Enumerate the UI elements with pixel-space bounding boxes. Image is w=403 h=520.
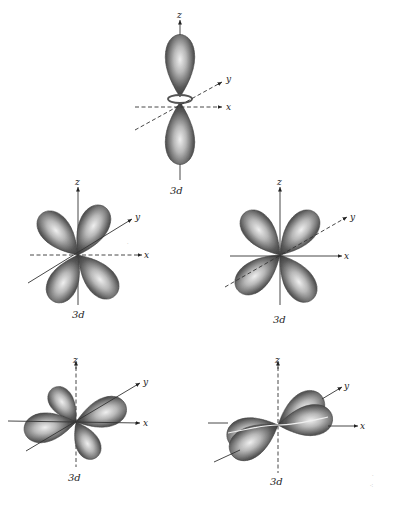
y-axis-label: y: [349, 212, 356, 222]
dxz-orbital-diagram: z y x 3d: [0, 175, 170, 335]
lobe-front-right: [276, 402, 335, 440]
y-axis-label: y: [225, 74, 232, 84]
dx2-y2-orbital-diagram: z y x 3d: [200, 355, 400, 490]
lobe-lower: [165, 102, 194, 165]
x-axis-label: x: [144, 250, 149, 260]
orbital-panel-dxz: z y x 3d: [0, 175, 170, 335]
dyz-orbital-diagram: z y x 3d: [210, 175, 380, 335]
x-axis-label: x: [226, 102, 231, 112]
orbital-panel-dyz: z y x 3d: [210, 175, 380, 335]
y-axis-label: y: [142, 377, 149, 387]
z-axis-label: z: [74, 177, 80, 187]
z-axis-label: z: [72, 355, 78, 365]
x-axis-label: x: [143, 418, 148, 428]
scan-artifact: ·:: [370, 482, 373, 488]
x-axis-label: x: [360, 421, 365, 431]
orbital-panel-dz2: z y x 3d: [130, 10, 250, 200]
y-axis-label: y: [134, 212, 141, 222]
z-axis-label: z: [274, 355, 280, 365]
scan-artifact: ·: [372, 472, 374, 478]
orbital-caption: 3d: [270, 476, 283, 487]
lobe-upper-left: [233, 203, 291, 264]
y-axis-upper: [322, 387, 342, 399]
orbital-caption: 3d: [273, 314, 286, 325]
orbital-panel-dx2-y2: z y x 3d: [200, 355, 400, 490]
dxy-orbital-diagram: z y x 3d: [0, 355, 180, 490]
x-axis-label: x: [344, 251, 349, 261]
z-axis-label: z: [276, 177, 282, 187]
orbital-panel-dxy: z y x 3d: [0, 355, 180, 490]
orbital-caption: 3d: [68, 472, 81, 483]
y-axis-label: y: [343, 381, 350, 391]
lobe-upper: [165, 35, 194, 98]
orbital-caption: 3d: [170, 185, 183, 196]
scan-artifact: ·: [127, 240, 129, 246]
dz2-orbital-diagram: z y x 3d: [130, 10, 250, 200]
orbital-caption: 3d: [72, 309, 85, 320]
z-axis-label: z: [176, 10, 182, 20]
